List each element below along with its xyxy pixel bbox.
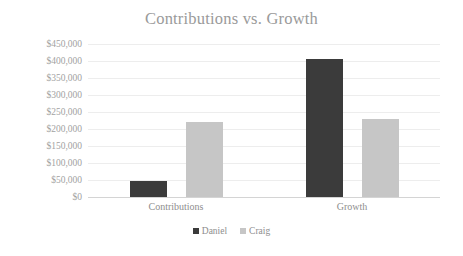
y-axis-tick-label: $200,000 xyxy=(8,124,82,134)
y-axis-tick-label: $300,000 xyxy=(8,90,82,100)
y-axis-tick-label: $400,000 xyxy=(8,56,82,66)
legend-swatch-icon xyxy=(240,228,246,234)
gridline xyxy=(88,61,440,62)
gridline xyxy=(88,44,440,45)
legend-label: Daniel xyxy=(202,226,227,236)
y-axis-tick-label: $0 xyxy=(8,192,82,202)
y-axis-tick-label: $450,000 xyxy=(8,39,82,49)
chart-legend: DanielCraig xyxy=(0,226,463,236)
legend-item-daniel[interactable]: Daniel xyxy=(193,226,227,236)
y-axis-tick-label: $100,000 xyxy=(8,158,82,168)
gridline xyxy=(88,95,440,96)
y-axis-tick-label: $250,000 xyxy=(8,107,82,117)
bar-contributions-craig[interactable] xyxy=(186,122,223,197)
chart-container: Contributions vs. Growth $0$50,000$100,0… xyxy=(0,0,463,256)
x-axis-category-label: Contributions xyxy=(88,201,264,212)
legend-label: Craig xyxy=(249,226,270,236)
y-axis-tick-label: $50,000 xyxy=(8,175,82,185)
gridline xyxy=(88,112,440,113)
bar-contributions-daniel[interactable] xyxy=(130,181,167,197)
y-axis: $0$50,000$100,000$150,000$200,000$250,00… xyxy=(6,0,82,256)
bar-growth-daniel[interactable] xyxy=(306,59,343,197)
bar-growth-craig[interactable] xyxy=(362,119,399,197)
gridline xyxy=(88,78,440,79)
legend-item-craig[interactable]: Craig xyxy=(240,226,270,236)
y-axis-tick-label: $350,000 xyxy=(8,73,82,83)
y-axis-tick-label: $150,000 xyxy=(8,141,82,151)
plot-area xyxy=(88,44,440,197)
x-axis-category-label: Growth xyxy=(264,201,440,212)
legend-swatch-icon xyxy=(193,228,199,234)
x-axis-line xyxy=(88,197,440,198)
